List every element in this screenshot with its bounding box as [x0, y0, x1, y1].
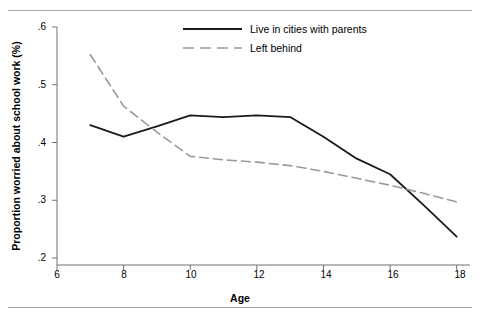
x-tick-label-8: 8 [109, 270, 139, 280]
y-tick-label-5: .5 [22, 80, 46, 90]
legend-swatches [183, 29, 242, 48]
x-tick-label-18: 18 [445, 270, 475, 280]
y-tick-label-3: .3 [22, 195, 46, 205]
series-line-live-in-cities-with-parents [90, 115, 456, 236]
x-tick-label-16: 16 [378, 270, 408, 280]
x-tick-label-6: 6 [42, 270, 72, 280]
y-axis-label: Proportion worried about school work (%) [10, 26, 22, 266]
series-line-left-behind [90, 55, 456, 202]
figure-container: Proportion worried about school work (%)… [0, 0, 480, 319]
y-tick-marks [52, 27, 57, 258]
series-lines [90, 55, 456, 237]
legend-label-left-behind: Left behind [250, 42, 302, 54]
y-tick-label-4: .4 [22, 138, 46, 148]
chart-canvas [0, 0, 480, 319]
axis-lines [57, 27, 470, 265]
x-tick-label-10: 10 [176, 270, 206, 280]
y-tick-label-6: .6 [22, 22, 46, 32]
x-tick-label-14: 14 [311, 270, 341, 280]
legend-label-live-in-cities-with-parents: Live in cities with parents [250, 23, 367, 35]
x-tick-label-12: 12 [244, 270, 274, 280]
y-tick-label-2: .2 [22, 253, 46, 263]
plot-area: Proportion worried about school work (%)… [0, 0, 480, 319]
x-axis-label: Age [0, 292, 480, 304]
